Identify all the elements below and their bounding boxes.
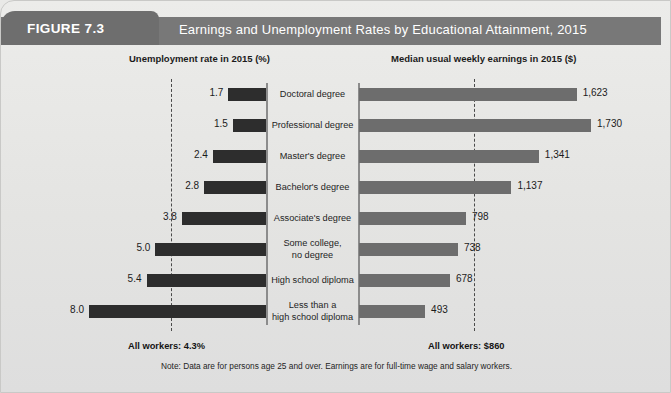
- unemployment-bar: [147, 274, 266, 287]
- earnings-bar: [359, 305, 425, 318]
- earnings-bar: [359, 243, 458, 256]
- unemployment-bar: [204, 181, 266, 194]
- earnings-value-label: 678: [456, 273, 473, 284]
- earnings-value-label: 1,730: [597, 118, 622, 129]
- category-label: Professional degree: [268, 112, 357, 139]
- unemployment-value-label: 8.0: [59, 304, 84, 315]
- unemployment-value-label: 1.5: [203, 118, 228, 129]
- earnings-bar: [359, 88, 577, 101]
- category-label: Associate's degree: [268, 205, 357, 232]
- table-row: 5.4High school diploma678: [1, 265, 671, 296]
- table-row: 8.0Less than ahigh school diploma493: [1, 296, 671, 327]
- category-label: Some college,no degree: [268, 236, 357, 263]
- earnings-bar: [359, 150, 539, 163]
- earnings-value-label: 1,137: [517, 180, 542, 191]
- unemployment-value-label: 3.8: [152, 211, 177, 222]
- figure-title: Earnings and Unemployment Rates by Educa…: [179, 22, 587, 37]
- earnings-value-label: 1,623: [583, 87, 608, 98]
- chart-plot-area: 1.7Doctoral degree1,6231.5Professional d…: [1, 71, 671, 333]
- unemployment-bar: [182, 212, 266, 225]
- unemployment-value-label: 1.7: [198, 87, 223, 98]
- table-row: 5.0Some college,no degree738: [1, 234, 671, 265]
- category-label: Doctoral degree: [268, 81, 357, 108]
- unemployment-value-label: 5.4: [117, 273, 142, 284]
- unemployment-value-label: 2.4: [183, 149, 208, 160]
- unemployment-bar: [233, 119, 266, 132]
- table-row: 1.5Professional degree1,730: [1, 110, 671, 141]
- earnings-bar: [359, 181, 511, 194]
- left-all-workers-label: All workers: 4.3%: [128, 341, 205, 351]
- left-axis-heading: Unemployment rate in 2015 (%): [129, 53, 270, 64]
- table-row: 2.8Bachelor's degree1,137: [1, 172, 671, 203]
- unemployment-bar: [89, 305, 266, 318]
- earnings-bar: [359, 212, 466, 225]
- table-row: 1.7Doctoral degree1,623: [1, 79, 671, 110]
- right-all-workers-label: All workers: $860: [428, 341, 504, 351]
- category-label: Master's degree: [268, 143, 357, 170]
- category-label: Less than ahigh school diploma: [268, 298, 357, 325]
- unemployment-value-label: 5.0: [125, 242, 150, 253]
- table-row: 2.4Master's degree1,341: [1, 141, 671, 172]
- unemployment-value-label: 2.8: [174, 180, 199, 191]
- earnings-bar: [359, 274, 450, 287]
- figure-note: Note: Data are for persons age 25 and ov…: [1, 361, 671, 371]
- right-axis-heading: Median usual weekly earnings in 2015 ($): [391, 53, 576, 64]
- figure-card: FIGURE 7.3 Earnings and Unemployment Rat…: [0, 0, 671, 393]
- earnings-value-label: 798: [472, 211, 489, 222]
- unemployment-bar: [155, 243, 266, 256]
- earnings-value-label: 493: [431, 304, 448, 315]
- category-label: Bachelor's degree: [268, 174, 357, 201]
- earnings-value-label: 1,341: [545, 149, 570, 160]
- category-label: High school diploma: [268, 267, 357, 294]
- unemployment-bar: [213, 150, 266, 163]
- unemployment-bar: [228, 88, 266, 101]
- table-row: 3.8Associate's degree798: [1, 203, 671, 234]
- figure-number-label: FIGURE 7.3: [27, 21, 105, 36]
- earnings-value-label: 738: [464, 242, 481, 253]
- earnings-bar: [359, 119, 591, 132]
